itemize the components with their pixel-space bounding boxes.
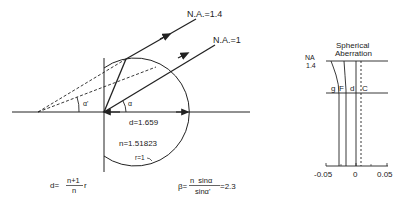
x-tick-label-zero: 0 [353, 170, 358, 179]
virtual-ray-2 [38, 67, 156, 112]
formula-d-den: n [72, 186, 76, 195]
virtual-ray-1 [38, 59, 126, 112]
curve-label-C: C [362, 84, 368, 93]
ray-na-1 [104, 45, 215, 112]
angle-alpha-prime-label: α' [83, 100, 88, 107]
distance-label: d=1.659 [129, 118, 159, 127]
formula-beta: β= n sinα sinα' =2.3 [178, 176, 236, 196]
na-axis-label-2: 1.4 [306, 62, 316, 69]
formula-d: d= n+1 n r [50, 176, 87, 195]
radius-label: r=1 [135, 154, 145, 161]
curve-label-g: g [331, 84, 335, 93]
left-diagram: α' α N.A.=1.4 N.A.=1 d=1.659 n=1.51823 r… [12, 9, 250, 172]
formula-d-lhs: d= [50, 181, 59, 190]
ray-na-1-4-arrow [160, 35, 168, 39]
curve-label-d: d [350, 84, 354, 93]
formula-beta-den: sinα' [195, 187, 211, 196]
formula-beta-tail: =2.3 [220, 182, 236, 191]
na-1-4-label: N.A.=1.4 [187, 9, 222, 19]
angle-alpha-label: α [128, 100, 132, 107]
spherical-aberration-chart: Spherical Aberration NA 1.4 g F d C -0.0… [305, 41, 393, 179]
ray-na-1-4-inner [104, 59, 126, 112]
chart-title-line2: Aberration [335, 49, 372, 58]
refractive-index-label: n=1.51823 [119, 139, 158, 148]
formula-d-num: n+1 [67, 176, 80, 185]
formula-beta-num: n sinα [190, 176, 213, 185]
formula-beta-lhs: β= [178, 182, 188, 191]
x-tick-label-neg: -0.05 [314, 170, 333, 179]
na-axis-label-1: NA [305, 54, 315, 61]
angle-alpha-arc [123, 101, 126, 112]
angle-alpha-prime-arc [77, 97, 79, 112]
x-tick-label-pos: 0.05 [377, 170, 393, 179]
curve-g [331, 61, 339, 166]
lens-diagram-canvas: α' α N.A.=1.4 N.A.=1 d=1.659 n=1.51823 r… [0, 0, 406, 206]
curve-label-F: F [339, 84, 344, 93]
ray-na-1-arrow [178, 54, 186, 58]
radius-leader [147, 158, 152, 161]
na-1-label: N.A.=1 [213, 35, 241, 45]
curve-F [344, 61, 346, 166]
formula-d-tail: r [84, 181, 87, 190]
